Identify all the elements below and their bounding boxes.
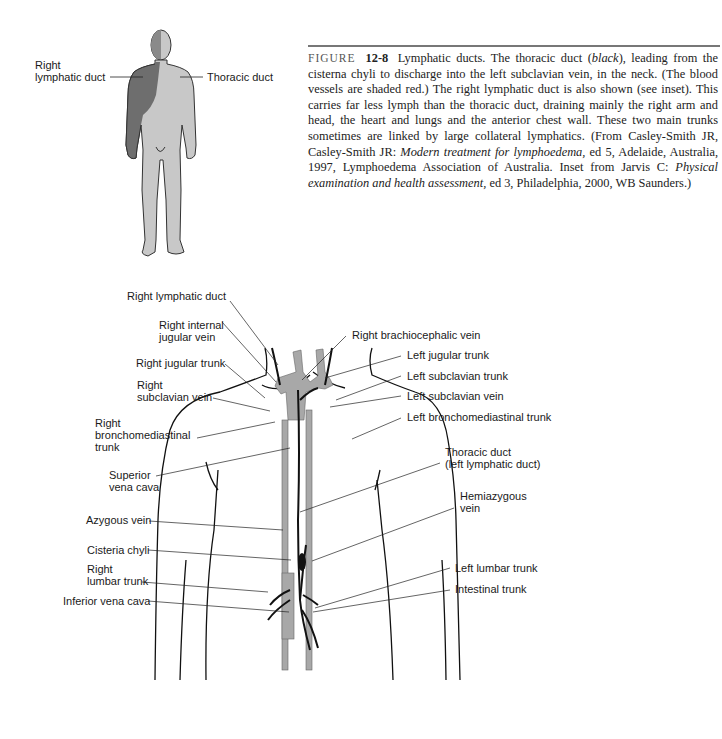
label-right-lymphatic-duct: Right lymphatic duct — [127, 290, 226, 302]
label-azygous-vein: Azygous vein — [86, 514, 151, 526]
label-right-bronchomediastinal-trunk-2: bronchomediastinal — [95, 429, 190, 441]
label-right-jugular-trunk: Right jugular trunk — [136, 357, 226, 369]
label-right-lumbar-trunk-2: lumbar trunk — [87, 575, 149, 587]
label-hemiazygous-vein-2: vein — [460, 502, 480, 514]
label-inferior-vena-cava: Inferior vena cava — [63, 595, 151, 607]
label-left-subclavian-trunk: Left subclavian trunk — [407, 370, 508, 382]
label-left-jugular-trunk: Left jugular trunk — [407, 349, 489, 361]
label-left-lumbar-trunk: Left lumbar trunk — [455, 562, 538, 574]
label-right-bronchomediastinal-trunk-1: Right — [95, 417, 121, 429]
label-cisteria-chyli: Cisteria chyli — [87, 544, 149, 556]
label-intestinal-trunk: Intestinal trunk — [455, 583, 527, 595]
label-right-subclavian-vein-1: Right — [137, 379, 163, 391]
label-thoracic-duct-1: Thoracic duct — [445, 446, 511, 458]
label-right-subclavian-vein-2: subclavian vein — [137, 391, 212, 403]
label-right-lumbar-trunk-1: Right — [87, 563, 113, 575]
label-superior-vena-cava-2: vena cava — [109, 481, 160, 493]
figure-page: Right lymphatic duct Thoracic duct FIGUR… — [0, 0, 722, 739]
label-superior-vena-cava-1: Superior — [109, 469, 151, 481]
label-right-brachiocephalic-vein: Right brachiocephalic vein — [352, 329, 480, 341]
label-right-bronchomediastinal-trunk-3: trunk — [95, 441, 120, 453]
label-left-bronchomediastinal-trunk: Left bronchomediastinal trunk — [407, 411, 552, 423]
lymphatic-diagram: Right lymphatic duct Right internal jugu… — [0, 0, 722, 739]
label-right-internal-jugular-vein-1: Right internal — [159, 319, 224, 331]
label-hemiazygous-vein-1: Hemiazygous — [460, 490, 527, 502]
label-thoracic-duct-2: (left lymphatic duct) — [445, 458, 540, 470]
label-left-subclavian-vein: Left subclavian vein — [407, 390, 504, 402]
label-right-internal-jugular-vein-2: jugular vein — [158, 331, 215, 343]
